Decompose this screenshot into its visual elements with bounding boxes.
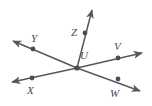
- dot-Y: [31, 47, 36, 52]
- ray-UY: [13, 41, 77, 68]
- dot-U: [74, 65, 79, 70]
- point-label-Z: Z: [71, 27, 77, 38]
- dot-W: [116, 77, 121, 82]
- dot-X: [30, 76, 35, 81]
- dot-Z: [83, 31, 88, 36]
- point-label-X: X: [27, 85, 34, 96]
- point-label-Y: Y: [31, 33, 37, 44]
- point-label-U: U: [80, 50, 88, 61]
- point-label-V: V: [114, 41, 121, 52]
- point-label-W: W: [110, 88, 119, 99]
- ray-UX: [12, 68, 77, 82]
- ray-UW: [77, 68, 140, 91]
- dot-V: [116, 56, 121, 61]
- point-group: [30, 31, 121, 82]
- geometry-figure: Y Z U V X W: [0, 0, 152, 106]
- geometry-canvas: [0, 0, 152, 106]
